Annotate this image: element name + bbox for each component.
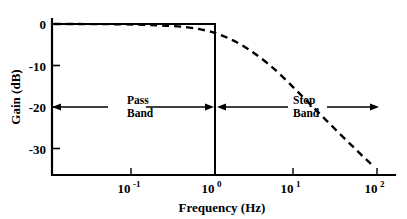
stop-band-arrow-left-head [217,104,226,111]
y-axis-tick-labels: 0 -10 -20 -30 [29,17,46,157]
pass-band-label-line1: Pass [127,94,149,106]
x-axis-title: Frequency (Hz) [179,200,266,215]
y-axis-ticks [52,24,60,149]
x-tick-label-1e-1: 10 -1 [118,179,141,196]
y-axis-title: Gain (dB) [8,69,23,124]
stop-band-arrow-right-head [370,104,379,111]
filter-response-chart: 0 -10 -20 -30 10 -1 10 0 10 1 [0,0,407,219]
x-tick-exponent-1e2: 2 [380,179,385,189]
stop-band-label: Stop Band [293,94,320,119]
x-tick-mantissa-1e-1: 10 [118,181,131,196]
filter-response-curve [54,24,372,165]
stop-band-label-line1: Stop [293,94,315,107]
stop-band-label-line2: Band [293,107,320,119]
x-tick-exponent-1e0: 0 [217,179,222,189]
chart-canvas: 0 -10 -20 -30 10 -1 10 0 10 1 [0,0,407,219]
x-axis-tick-labels: 10 -1 10 0 10 1 10 2 [118,179,386,196]
x-tick-label-1e2: 10 2 [365,179,386,196]
pass-band-label-line2: Band [127,107,154,119]
y-tick-label-minus20: -20 [29,100,46,115]
pass-band-label: Pass Band [127,94,154,119]
pass-band-arrow-right-head [205,104,214,111]
x-tick-mantissa-1e2: 10 [365,181,378,196]
x-tick-exponent-1e1: 1 [296,179,301,189]
axis-frame [52,19,395,175]
x-tick-mantissa-1e0: 10 [202,181,215,196]
y-tick-label-minus30: -30 [29,142,46,157]
x-tick-exponent-1e-1: -1 [133,179,141,189]
pass-band-arrow-left-head [52,104,61,111]
x-tick-label-1e0: 10 0 [202,179,223,196]
x-tick-mantissa-1e1: 10 [281,181,294,196]
x-tick-label-1e1: 10 1 [281,179,302,196]
y-tick-label-0: 0 [40,17,47,32]
y-tick-label-minus10: -10 [29,59,46,74]
